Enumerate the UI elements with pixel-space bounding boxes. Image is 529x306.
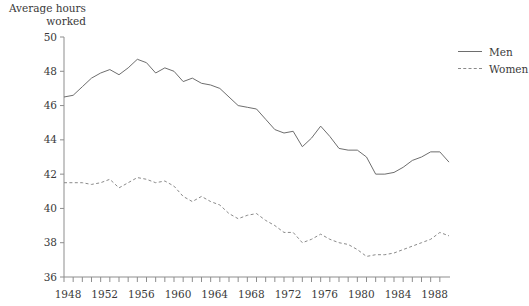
y-axis-title: Average hours worked (0, 2, 86, 28)
y-tick-label: 44 (44, 133, 58, 145)
y-tick-label: 42 (44, 168, 57, 180)
x-tick-label: 1956 (128, 288, 155, 300)
legend-line-dashed-icon (458, 68, 482, 70)
line-chart: Average hours worked 3638404244464850 19… (0, 0, 529, 306)
legend-label-women: Women (489, 63, 528, 75)
legend-item-men: Men (458, 43, 528, 60)
x-tick-label: 1988 (421, 288, 448, 300)
legend-label-men: Men (489, 46, 513, 58)
y-tick-label: 36 (44, 271, 58, 283)
legend-item-women: Women (458, 60, 528, 77)
x-tick-label: 1964 (201, 288, 228, 300)
x-tick-label: 1948 (55, 288, 82, 300)
x-tick-label: 1980 (348, 288, 375, 300)
chart-plot-area: 3638404244464850 19481952195619601964196… (0, 0, 529, 306)
data-series-group (64, 59, 449, 256)
y-tick-label: 48 (44, 65, 57, 77)
series-line-women (64, 178, 449, 257)
x-tick-label: 1984 (385, 288, 412, 300)
y-tick-label: 40 (44, 202, 57, 214)
x-tick-label: 1952 (91, 288, 118, 300)
x-tick-label: 1960 (165, 288, 192, 300)
y-tick-label: 38 (44, 236, 57, 248)
chart-legend: Men Women (458, 43, 528, 77)
x-tick-label: 1968 (238, 288, 265, 300)
y-axis: 3638404244464850 (44, 31, 64, 283)
x-axis: 1948195219561960196419681972197619801984… (55, 277, 450, 300)
series-line-men (64, 59, 449, 174)
y-tick-label: 50 (44, 31, 57, 43)
y-tick-label: 46 (44, 99, 58, 111)
legend-line-solid-icon (458, 51, 482, 53)
x-tick-label: 1972 (275, 288, 302, 300)
x-tick-label: 1976 (311, 288, 338, 300)
